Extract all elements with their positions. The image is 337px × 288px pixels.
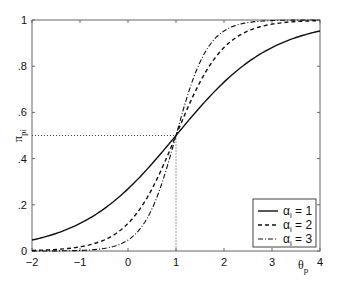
y-tick-label: .4 <box>18 153 27 165</box>
x-tick-label: 3 <box>269 256 275 268</box>
x-tick-label: 2 <box>221 256 227 268</box>
y-tick-label: 0 <box>21 245 27 257</box>
y-tick-label: .6 <box>18 106 27 118</box>
x-tick-label: 1 <box>173 256 179 268</box>
y-tick-label: .8 <box>18 60 27 72</box>
x-axis-label: θp <box>298 258 309 275</box>
x-tick-label: −1 <box>74 256 87 268</box>
y-axis-label: πpi <box>11 128 28 142</box>
x-tick-label: −2 <box>26 256 39 268</box>
y-tick-label: .2 <box>18 199 27 211</box>
logistic-curves-chart: −2−101234 0.2.4.6.81 θp πpi αi = 1 αi = … <box>0 0 337 288</box>
svg-text:αi = 3: αi = 3 <box>283 232 312 248</box>
x-tick-label: 4 <box>317 256 323 268</box>
x-tick-label: 0 <box>125 256 131 268</box>
legend: αi = 1 αi = 2 αi = 3 <box>253 199 316 248</box>
y-tick-label: 1 <box>21 14 27 26</box>
